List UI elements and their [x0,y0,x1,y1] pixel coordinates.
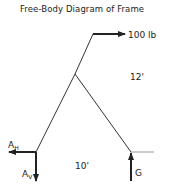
label-ah: AH [8,140,19,151]
label-g: G [135,168,142,178]
frame-members [36,34,131,152]
member-top-to-junction [75,34,93,74]
member-junction-to-a [36,74,75,152]
member-junction-to-g [75,74,131,152]
label-100lb: 100 lb [128,30,157,40]
frame-diagram: 100 lb 12' 10' AH AV G [0,0,171,196]
label-av: AV [22,169,33,180]
label-12ft: 12' [130,72,144,82]
label-10ft: 10' [75,161,89,171]
